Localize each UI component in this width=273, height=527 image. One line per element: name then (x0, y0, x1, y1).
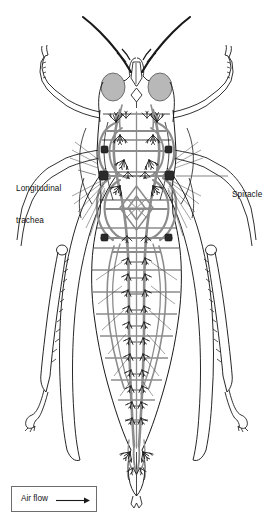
air-flow-label: Air flow (21, 494, 48, 503)
label-longitudinal-trachea-line2: trachea (16, 216, 61, 227)
label-longitudinal-trachea-line1: Longitudinal (16, 184, 61, 195)
spiracle-right-main (165, 171, 174, 180)
air-flow-legend-box: Air flow (11, 486, 97, 512)
label-longitudinal-trachea: Longitudinal trachea (16, 163, 61, 237)
label-spiracle: Spiracle (232, 169, 262, 211)
compound-eye-right (148, 73, 172, 101)
grasshopper-tracheal-system-figure (0, 0, 273, 527)
spiracle-left-main (99, 171, 108, 180)
air-flow-arrow-icon (56, 496, 92, 505)
compound-eye-left (101, 73, 125, 101)
label-spiracle-line1: Spiracle (232, 190, 262, 201)
